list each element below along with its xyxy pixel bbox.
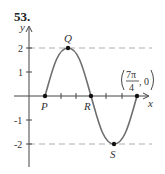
label-end-y: , 0	[139, 76, 149, 87]
y-tick-2: 2	[18, 43, 23, 54]
label-q: Q	[64, 32, 72, 44]
y-tick-1: 1	[18, 67, 23, 78]
y-axis-label: y	[19, 21, 25, 33]
y-tick-neg2: -2	[14, 139, 22, 150]
point-q	[66, 46, 70, 50]
y-tick-neg1: -1	[14, 115, 22, 126]
x-axis-label: x	[147, 97, 153, 109]
label-r: R	[83, 100, 91, 112]
point-p	[43, 94, 47, 98]
point-s	[112, 142, 116, 146]
label-p: P	[40, 100, 48, 112]
label-end-numerator: 7π	[126, 69, 136, 80]
point-end	[135, 94, 139, 98]
label-end-denominator: 4	[129, 82, 134, 93]
point-r	[89, 94, 93, 98]
label-s: S	[110, 148, 116, 160]
label-end-point: 7π 4 , 0	[122, 69, 154, 93]
sinusoid-figure: 53. y x 2 1 -1 -2 P Q R S 7π 4 , 0	[0, 0, 165, 174]
